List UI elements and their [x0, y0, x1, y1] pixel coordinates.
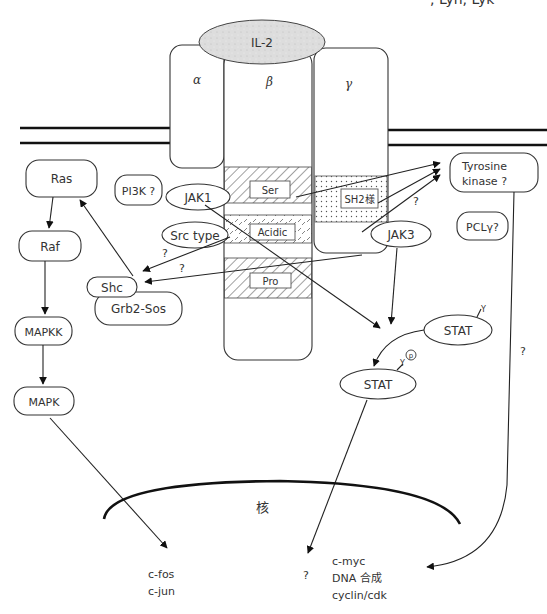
svg-text:Raf: Raf	[40, 240, 60, 254]
question-beta-shc: ?	[179, 262, 185, 275]
svg-text:Src type: Src type	[170, 229, 220, 243]
arrow-stat-nucleus	[308, 400, 367, 553]
receptor-beta-chain: Ser Acidic Pro β	[224, 50, 312, 360]
svg-text:JAK3: JAK3	[386, 228, 414, 242]
target-cfos: c-fos	[148, 568, 175, 581]
target-cjun: c-jun	[148, 585, 175, 598]
svg-text:p: p	[409, 352, 414, 360]
target-unknown: ?	[303, 569, 309, 582]
target-cmyc: c-myc	[332, 555, 365, 568]
header-fragment: , Lyn, Lyk	[430, 0, 495, 7]
receptor-gamma-chain: SH2様 γ	[314, 48, 388, 253]
question-jak3-tk: ?	[413, 195, 419, 208]
svg-text:PI3K ?: PI3K ?	[122, 185, 156, 198]
arrow-jak3-stat	[391, 248, 397, 324]
pro-domain-label: Pro	[263, 276, 279, 287]
node-stat-top: STAT Y	[424, 305, 492, 345]
node-plc-gamma: PCLγ?	[457, 212, 508, 240]
arrow-stat-phosphorylation	[374, 330, 424, 366]
svg-text:MAPK: MAPK	[29, 396, 61, 409]
beta-label: β	[265, 75, 273, 89]
svg-text:kinase ?: kinase ?	[462, 175, 507, 188]
node-jak1: JAK1	[166, 184, 230, 210]
target-dna-synthesis: DNA 合成	[332, 571, 382, 585]
svg-text:Ras: Ras	[51, 172, 73, 186]
svg-text:Tyrosine: Tyrosine	[461, 160, 507, 173]
node-jak3: JAK3	[371, 221, 431, 247]
acidic-domain-label: Acidic	[258, 227, 288, 238]
target-cyclin-cdk: cyclin/cdk	[332, 589, 387, 602]
question-src-shc: ?	[162, 247, 168, 260]
arrow-shc-ras	[80, 200, 133, 276]
question-tk-line: ?	[520, 345, 526, 358]
arrow-tk-cmyc	[427, 192, 514, 567]
svg-text:Shc: Shc	[101, 281, 123, 295]
sh2-domain-label: SH2様	[344, 193, 374, 205]
il2-ligand: IL-2	[199, 20, 325, 64]
node-pi3k: PI3K ?	[115, 175, 162, 205]
ser-domain-label: Ser	[262, 185, 280, 196]
svg-text:PCLγ?: PCLγ?	[466, 221, 499, 234]
node-ras: Ras	[26, 160, 97, 197]
tyrosine-y-bottom: Y	[399, 359, 405, 368]
node-shc: Shc	[87, 277, 137, 297]
node-mapkk: MAPKK	[15, 317, 72, 345]
tyrosine-y-top: Y	[480, 305, 486, 314]
node-src-type: Src type	[162, 222, 228, 248]
svg-text:JAK1: JAK1	[183, 191, 211, 205]
arrow-ras-raf	[49, 197, 53, 228]
alpha-label: α	[193, 73, 201, 87]
receptor-alpha-chain: α	[170, 45, 224, 168]
svg-text:MAPKK: MAPKK	[24, 326, 63, 339]
il2-label: IL-2	[251, 36, 273, 50]
nucleus-membrane	[104, 481, 460, 524]
nucleus-label: 核	[256, 500, 269, 515]
svg-text:STAT: STAT	[364, 378, 393, 392]
il2-signaling-diagram: , Lyn, Lyk α SH2様 γ Ser Acidic Pro β IL-…	[0, 0, 547, 614]
gamma-label: γ	[345, 77, 353, 91]
node-mapk: MAPK	[14, 387, 74, 415]
svg-text:Grb2-Sos: Grb2-Sos	[111, 302, 166, 316]
node-tyrosine-kinase: Tyrosine kinase ?	[450, 153, 538, 192]
svg-text:STAT: STAT	[444, 324, 473, 338]
arrow-mapk-cfos	[50, 418, 167, 548]
node-raf: Raf	[19, 231, 81, 261]
